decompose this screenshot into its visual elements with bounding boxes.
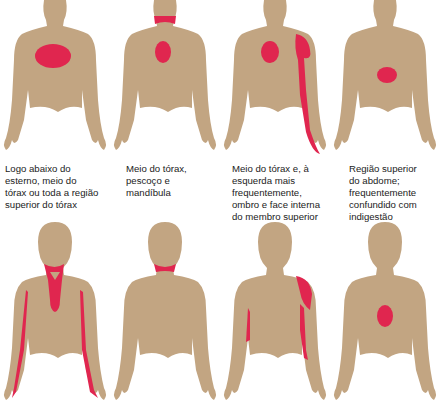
torso-figure — [330, 0, 440, 160]
torso-figure — [110, 0, 220, 160]
caption: Meio do tórax e, à esquerda mais frequen… — [232, 163, 337, 223]
pain-area-between-shoulder-blades — [377, 305, 393, 327]
pain-area-chest — [261, 41, 279, 63]
torso-figure — [220, 0, 330, 160]
caption: Região superior do abdome; frequentement… — [349, 163, 440, 223]
torso-figure — [110, 220, 220, 407]
pain-area-chest — [155, 41, 171, 63]
torso-figure — [0, 220, 110, 407]
torso-figure-back — [330, 220, 440, 407]
caption: Meio do tórax, pescoço e mandíbula — [126, 163, 226, 199]
torso-figure — [0, 0, 110, 160]
caption: Logo abaixo do esterno, meio do tórax ou… — [5, 163, 115, 211]
torso-figure — [220, 220, 330, 407]
pain-area-chest — [35, 44, 71, 68]
pain-area-upper-abdomen — [377, 67, 397, 83]
